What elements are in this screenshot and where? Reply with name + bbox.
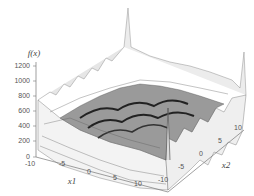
x2-tick: -10 (158, 176, 168, 183)
z-axis: 0 200 400 600 800 1000 1200 f(x) (14, 48, 40, 160)
z-axis-label: f(x) (28, 48, 41, 58)
z-tick: 0 (26, 153, 30, 160)
x1-tick: -10 (25, 160, 35, 167)
x2-axis-label: x2 (221, 160, 231, 170)
z-tick: 800 (18, 92, 30, 99)
x1-tick: 10 (134, 180, 142, 187)
surface-mesh (38, 8, 246, 190)
x1-tick: -5 (59, 160, 65, 167)
x1-tick: 5 (113, 174, 117, 181)
x1-axis-label: x1 (67, 176, 77, 186)
x1-tick: 0 (87, 168, 91, 175)
z-tick: 1200 (14, 62, 30, 69)
x2-tick: 5 (218, 137, 222, 144)
surface-plot: 0 200 400 600 800 1000 1200 f(x) (0, 0, 254, 196)
z-tick: 600 (18, 107, 30, 114)
z-tick: 1000 (14, 77, 30, 84)
x2-tick: -5 (178, 163, 184, 170)
x2-tick: 10 (234, 124, 242, 131)
z-tick: 400 (18, 122, 30, 129)
x2-tick: 0 (199, 150, 203, 157)
z-tick: 200 (18, 137, 30, 144)
